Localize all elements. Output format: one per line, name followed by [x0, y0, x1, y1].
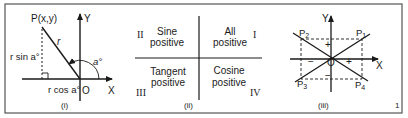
point-p4-label: P4: [355, 79, 365, 91]
point-label: P(x,y): [31, 13, 57, 24]
x-axis-label: X: [108, 85, 115, 96]
panel-unit-circle: P(x,y) r r sin a° r cos a° a° O X Y (i): [10, 13, 115, 110]
origin-label: O: [82, 85, 90, 96]
y-axis-label: Y: [322, 13, 329, 24]
y-axis-label: Y: [84, 13, 91, 24]
sign-down: −: [325, 70, 331, 81]
quadrant-numeral-iii: III: [136, 87, 146, 98]
quadrant-numeral-ii: II: [137, 29, 144, 40]
sign-left: −: [308, 56, 314, 67]
figure-number: 1: [395, 101, 400, 110]
radius-label: r: [57, 36, 61, 47]
x-axis-label: X: [376, 60, 383, 71]
radius-line: [42, 27, 80, 79]
adjacent-label: r cos a°: [48, 84, 81, 95]
quadrant-numeral-iv: IV: [250, 87, 261, 98]
right-angle-mark: [42, 73, 48, 79]
opposite-label: r sin a°: [10, 51, 40, 62]
quadrant-iv-line1: Cosine: [213, 65, 245, 76]
angle-label: a°: [93, 56, 102, 67]
quadrant-ii-line1: Sine: [157, 26, 177, 37]
point-p3-sub: 3: [303, 83, 307, 90]
trig-figure: P(x,y) r r sin a° r cos a° a° O X Y (i) …: [0, 0, 408, 118]
point-p1-label: P1: [356, 27, 366, 39]
panel-caption: (ii): [184, 101, 193, 110]
quadrant-numeral-i: I: [253, 29, 256, 40]
quadrant-iv-line2: positive: [212, 77, 246, 88]
quadrant-ii-line2: positive: [150, 37, 184, 48]
point-p2-sub: 2: [305, 32, 309, 39]
panel-caption: (iii): [318, 101, 329, 110]
point-p3-label: P3: [297, 78, 307, 90]
sign-right: +: [346, 56, 352, 67]
panel-symmetric-points: P2 P1 P3 P4 O X Y + + − − (iii) 1: [290, 13, 400, 110]
quadrant-i-line1: All: [224, 26, 235, 37]
quadrant-iii-line1: Tangent: [150, 66, 186, 77]
sign-up: +: [325, 39, 331, 50]
point-p4-sub: 4: [361, 84, 365, 91]
point-p1-sub: 1: [362, 32, 366, 39]
panel-quadrant-signs: II Sine positive All positive I Tangent …: [135, 16, 262, 110]
point-p2-label: P2: [299, 27, 309, 39]
panel-caption: (i): [61, 101, 68, 110]
origin-label: O: [327, 57, 335, 68]
quadrant-iii-line2: positive: [151, 77, 185, 88]
quadrant-i-line2: positive: [213, 37, 247, 48]
